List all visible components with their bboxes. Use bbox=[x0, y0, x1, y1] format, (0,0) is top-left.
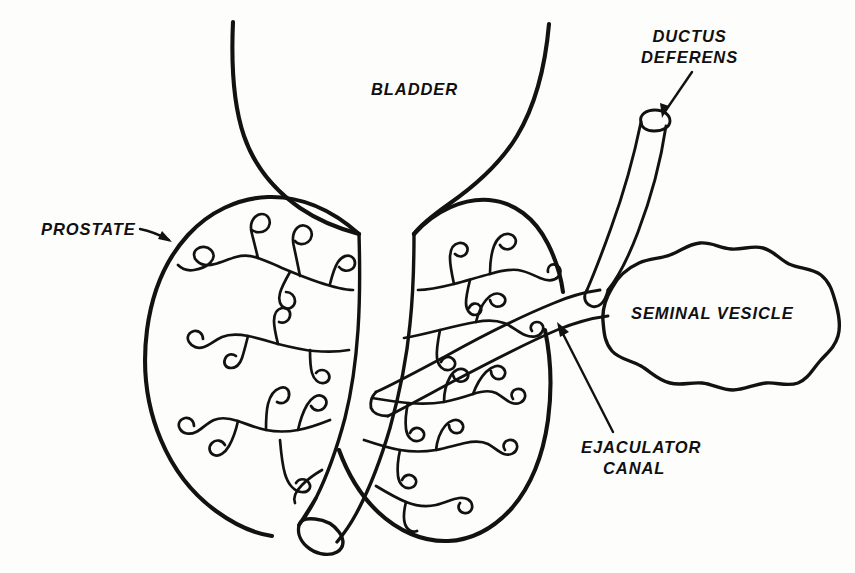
gland-branch-left-11 bbox=[266, 387, 289, 430]
gland-branch-right-9 bbox=[406, 403, 424, 441]
gland-branch-left-6 bbox=[188, 331, 349, 352]
gland-branch-left-10 bbox=[179, 418, 330, 434]
bladder-right-wall bbox=[414, 24, 549, 234]
label-ductus-deferens-line1: DUCTUS bbox=[652, 27, 726, 45]
prostate-right-outline-lower bbox=[339, 330, 550, 541]
label-ductus-deferens-line2: DEFERENS bbox=[641, 47, 738, 68]
label-ejaculator-canal: EJACULATOR CANAL bbox=[581, 437, 701, 479]
gland-branch-left-3 bbox=[293, 225, 312, 276]
gland-branch-right-13 bbox=[398, 450, 416, 488]
urethra-cut-end-ellipse bbox=[298, 519, 342, 555]
leader-lines-group bbox=[140, 72, 692, 432]
gland-branches-left bbox=[178, 214, 355, 503]
ejaculatory-duct-junction bbox=[371, 392, 388, 416]
ejaculator-canal-arrowhead-icon bbox=[557, 322, 569, 337]
gland-branch-left-14 bbox=[280, 440, 310, 492]
gland-branch-right-15 bbox=[376, 486, 472, 513]
urethra-tube-lower-left bbox=[299, 498, 316, 525]
urethra-right-edge bbox=[337, 234, 414, 542]
gland-branch-right-16 bbox=[404, 502, 417, 532]
label-seminal-vesicle: SEMINAL VESICLE bbox=[631, 303, 794, 324]
gland-branch-left-8 bbox=[310, 350, 329, 383]
label-ejaculator-canal-line1: EJACULATOR bbox=[581, 438, 701, 456]
gland-branch-right-3 bbox=[490, 234, 516, 274]
bladder-left-wall bbox=[232, 22, 359, 234]
gland-branch-left-5 bbox=[279, 272, 295, 309]
gland-branch-right-6 bbox=[437, 330, 455, 370]
gland-branch-right-8 bbox=[372, 389, 525, 404]
prostate-left-outline bbox=[145, 197, 359, 536]
label-ductus-deferens: DUCTUS DEFERENS bbox=[641, 26, 738, 68]
gland-branch-left-9 bbox=[224, 336, 248, 368]
anatomical-diagram-figure: BLADDER PROSTATE DUCTUS DEFERENS SEMINAL… bbox=[0, 0, 855, 573]
label-bladder: BLADDER bbox=[371, 79, 458, 100]
gland-branch-left-12 bbox=[298, 395, 326, 430]
gland-branch-right-5 bbox=[404, 321, 543, 338]
gland-branch-right-2 bbox=[450, 243, 468, 284]
gland-branch-left-2 bbox=[251, 214, 270, 258]
gland-branch-right-7 bbox=[476, 294, 505, 322]
gland-branch-left-4 bbox=[330, 256, 355, 284]
prostate-left-lobe-group bbox=[145, 197, 359, 536]
prostate-arrowhead-icon bbox=[158, 231, 172, 242]
gland-branch-left-7 bbox=[274, 308, 290, 344]
gland-branch-left-1 bbox=[178, 247, 353, 290]
gland-branch-left-13 bbox=[210, 421, 238, 456]
label-prostate: PROSTATE bbox=[41, 219, 136, 240]
label-ejaculator-canal-line2: CANAL bbox=[581, 458, 701, 479]
ejaculator-canal-leader-line bbox=[561, 330, 613, 432]
ductus-deferens-group bbox=[585, 110, 670, 307]
ductus-deferens-cut-ellipse bbox=[641, 110, 670, 131]
gland-branch-right-11 bbox=[473, 366, 505, 394]
